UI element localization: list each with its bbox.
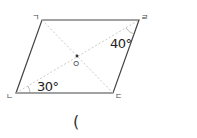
angle-label-30: 30° [37, 80, 59, 93]
angle-arc-30 [28, 86, 30, 93]
center-point [76, 55, 79, 58]
parallelogram-figure [0, 0, 197, 138]
angle-label-40: 40° [110, 37, 132, 50]
vertex-label-top-right: ㄹ [141, 14, 148, 22]
angle-arc-40 [126, 28, 134, 34]
vertex-label-bottom-left: ㄴ [6, 93, 13, 101]
answer-paren: ( [73, 114, 79, 130]
vertex-label-top-left: ㄱ [32, 14, 39, 22]
center-label: ㅇ [72, 60, 80, 69]
vertex-label-bottom-right: ㄷ [115, 93, 122, 101]
